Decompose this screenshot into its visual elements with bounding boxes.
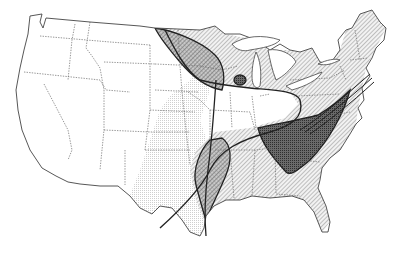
zone-wisconsin-spot <box>234 75 246 85</box>
us-map <box>0 0 394 254</box>
map-container <box>0 0 394 254</box>
